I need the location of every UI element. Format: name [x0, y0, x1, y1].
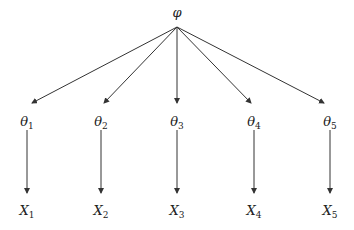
node-x-2: X2 — [94, 204, 109, 220]
node-x-4: X4 — [247, 204, 262, 220]
edge-phi-theta4 — [177, 27, 251, 103]
node-phi: φ — [172, 6, 181, 19]
edge-phi-theta1 — [32, 27, 177, 103]
node-theta-4: θ4 — [247, 115, 261, 131]
node-theta-1: θ1 — [20, 115, 34, 131]
node-theta-2: θ2 — [94, 115, 108, 131]
node-theta-3: θ3 — [170, 115, 184, 131]
node-x-1: X1 — [20, 204, 35, 220]
graphical-model-diagram: φ θ1 θ2 θ3 θ4 θ5 X1 X2 X3 X4 X5 — [0, 0, 354, 230]
node-theta-5: θ5 — [323, 115, 337, 131]
edge-phi-theta5 — [177, 27, 324, 103]
edge-phi-theta2 — [104, 27, 177, 103]
node-x-3: X3 — [170, 204, 185, 220]
node-x-5: X5 — [323, 204, 338, 220]
